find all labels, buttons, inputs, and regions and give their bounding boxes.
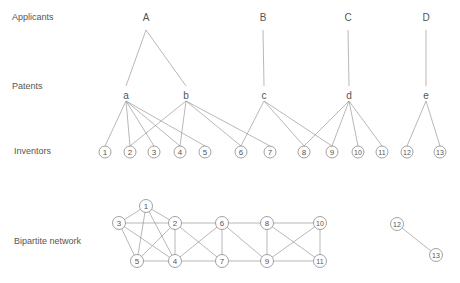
- bipartite-node: 7: [216, 255, 229, 268]
- applicant-patent-edge: [126, 30, 146, 86]
- bipartite-edge: [137, 223, 175, 261]
- inventor-node: 5: [199, 146, 211, 158]
- bipartite-edge: [397, 224, 436, 255]
- svg-text:8: 8: [265, 219, 270, 228]
- bipartite-node: 9: [261, 255, 274, 268]
- patent-inventor-edge: [186, 101, 241, 146]
- svg-text:2: 2: [128, 148, 133, 157]
- bipartite-node: 8: [261, 217, 274, 230]
- patent-inventor-edge: [126, 101, 154, 146]
- applicant-node: B: [260, 12, 267, 23]
- applicant-node: D: [422, 12, 429, 23]
- inventor-node: 9: [326, 146, 338, 158]
- svg-text:9: 9: [265, 257, 270, 266]
- patent-inventor-edge: [180, 101, 186, 146]
- inventor-node: 11: [376, 146, 388, 158]
- patent-node: d: [346, 90, 352, 101]
- svg-text:1: 1: [144, 202, 149, 211]
- patent-inventor-edge: [126, 101, 130, 146]
- svg-text:13: 13: [432, 252, 440, 259]
- patent-inventor-edge: [349, 101, 358, 146]
- svg-text:11: 11: [378, 149, 385, 156]
- inventor-node: 1: [99, 146, 111, 158]
- svg-text:11: 11: [316, 258, 323, 265]
- svg-text:12: 12: [393, 221, 401, 228]
- patent-node: a: [123, 90, 129, 101]
- network-diagram: ABCD abcde 12345678910111213 12345678910…: [0, 0, 460, 283]
- svg-text:9: 9: [330, 148, 335, 157]
- applicant-patent-edges: [126, 30, 426, 86]
- applicant-patent-edge: [348, 30, 349, 86]
- svg-text:8: 8: [302, 148, 307, 157]
- inventor-node: 3: [148, 146, 160, 158]
- svg-text:10: 10: [354, 149, 362, 156]
- bipartite-node: 1: [140, 200, 153, 213]
- inventor-node: 13: [434, 146, 446, 158]
- svg-text:7: 7: [220, 257, 225, 266]
- bipartite-edge: [137, 206, 146, 261]
- patent-inventor-edge: [241, 101, 264, 146]
- applicant-patent-edge: [263, 30, 264, 86]
- bipartite-edge: [119, 223, 175, 261]
- applicant-patent-edge: [146, 30, 186, 86]
- bipartite-node: 3: [113, 217, 126, 230]
- inventor-nodes: 12345678910111213: [99, 146, 446, 158]
- inventor-node: 6: [235, 146, 247, 158]
- svg-text:4: 4: [173, 257, 178, 266]
- applicant-nodes: ABCD: [143, 12, 430, 23]
- svg-text:1: 1: [103, 148, 108, 157]
- inventor-node: 12: [401, 146, 413, 158]
- bipartite-node: 4: [169, 255, 182, 268]
- bipartite-node: 12: [391, 218, 404, 231]
- svg-text:12: 12: [403, 149, 411, 156]
- patent-node: e: [423, 90, 429, 101]
- inventor-node: 10: [352, 146, 364, 158]
- svg-text:13: 13: [436, 149, 444, 156]
- svg-text:6: 6: [220, 219, 225, 228]
- svg-text:6: 6: [239, 148, 244, 157]
- bipartite-nodes: 12345678910111213: [113, 200, 443, 268]
- svg-text:3: 3: [117, 219, 122, 228]
- patent-inventor-edge: [126, 101, 180, 146]
- patent-inventor-edges: [105, 101, 440, 146]
- inventor-node: 7: [264, 146, 276, 158]
- bipartite-node: 13: [430, 249, 443, 262]
- svg-text:5: 5: [135, 257, 140, 266]
- bipartite-node: 6: [216, 217, 229, 230]
- patent-nodes: abcde: [123, 90, 429, 101]
- bipartite-node: 2: [169, 217, 182, 230]
- svg-text:10: 10: [316, 220, 324, 227]
- patent-inventor-edge: [349, 101, 382, 146]
- bipartite-node: 11: [314, 255, 327, 268]
- patent-inventor-edge: [105, 101, 126, 146]
- inventor-node: 4: [174, 146, 186, 158]
- patent-node: c: [262, 90, 267, 101]
- svg-text:7: 7: [268, 148, 273, 157]
- patent-inventor-edge: [332, 101, 349, 146]
- bipartite-edges: [119, 206, 436, 261]
- applicant-node: A: [143, 12, 150, 23]
- patent-node: b: [183, 90, 189, 101]
- bipartite-edge: [222, 223, 267, 261]
- svg-text:5: 5: [203, 148, 208, 157]
- inventor-node: 2: [124, 146, 136, 158]
- inventor-node: 8: [298, 146, 310, 158]
- patent-inventor-edge: [186, 101, 270, 146]
- bipartite-node: 10: [314, 217, 327, 230]
- svg-text:4: 4: [178, 148, 183, 157]
- patent-inventor-edge: [407, 101, 426, 146]
- patent-inventor-edge: [426, 101, 440, 146]
- applicant-node: C: [344, 12, 351, 23]
- patent-inventor-edge: [304, 101, 349, 146]
- bipartite-node: 5: [131, 255, 144, 268]
- svg-text:2: 2: [173, 219, 178, 228]
- svg-text:3: 3: [152, 148, 157, 157]
